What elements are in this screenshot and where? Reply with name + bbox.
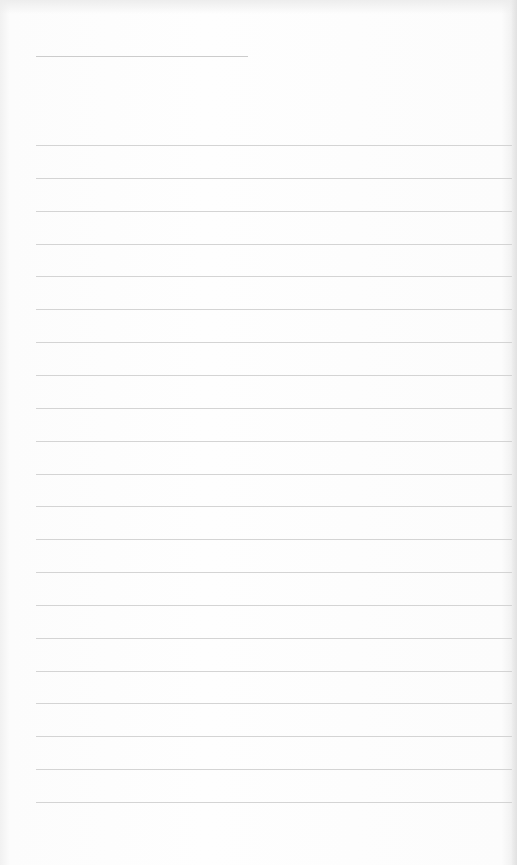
paper-right-edge-shadow [511,0,517,865]
ruled-line [36,211,512,212]
paper-top-shadow [0,0,517,14]
header-rule [36,56,248,57]
ruled-line [36,506,512,507]
ruled-line [36,408,512,409]
lined-paper-sheet [0,0,517,865]
ruled-line [36,474,512,475]
ruled-line [36,769,512,770]
ruled-line [36,309,512,310]
ruled-line [36,605,512,606]
ruled-line [36,441,512,442]
ruled-line [36,736,512,737]
ruled-line [36,375,512,376]
ruled-line [36,244,512,245]
ruled-line [36,276,512,277]
ruled-line [36,178,512,179]
ruled-line [36,145,512,146]
ruled-line [36,572,512,573]
ruled-line [36,342,512,343]
ruled-line [36,671,512,672]
ruled-line [36,539,512,540]
ruled-line [36,703,512,704]
ruled-line [36,802,512,803]
ruled-line [36,638,512,639]
